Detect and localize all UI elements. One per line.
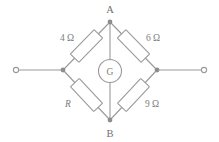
node-b-label: B: [106, 128, 113, 139]
node-b-dot: [108, 118, 113, 123]
circuit-diagram-figure: G A B 4 Ω 6 Ω R 9 Ω: [0, 0, 219, 142]
resistor-top-left-body: [70, 30, 102, 63]
resistor-top-right-body: [117, 30, 149, 63]
galvanometer-label: G: [107, 67, 114, 77]
node-a-label: A: [106, 4, 114, 15]
resistor-r-label: R: [64, 99, 71, 109]
node-left-dot: [61, 68, 66, 73]
node-right-dot: [155, 68, 160, 73]
wheatstone-bridge-svg: G A B 4 Ω 6 Ω R 9 Ω: [0, 0, 219, 142]
resistor-9-ohm-label: 9 Ω: [145, 99, 159, 109]
resistor-bottom-left-body: [70, 79, 102, 112]
terminal-left-icon[interactable]: [13, 67, 18, 72]
node-a-dot: [108, 20, 113, 25]
terminal-right-icon[interactable]: [201, 67, 206, 72]
resistor-6-ohm-label: 6 Ω: [146, 33, 160, 43]
resistor-4-ohm-label: 4 Ω: [60, 33, 74, 43]
